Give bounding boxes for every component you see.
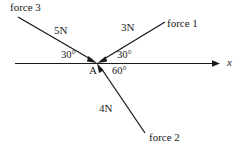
angle-below-label: 60° [112, 66, 127, 77]
force-3-magnitude-label: 5N [54, 25, 67, 36]
force-3-label: force 3 [10, 2, 41, 13]
x-axis-label: x [227, 57, 232, 68]
origin-point-label: A [89, 65, 97, 76]
force-1-label: force 1 [167, 18, 198, 29]
force-1-magnitude-label: 3N [121, 22, 134, 33]
force-2-label: force 2 [149, 132, 180, 143]
force-2-vector-line [101, 68, 145, 133]
force-diagram: force 3 5N 30° force 1 3N 30° 60° A 4N f… [0, 0, 242, 156]
force-2-magnitude-label: 4N [99, 103, 112, 114]
angle-right-label: 30° [117, 50, 132, 61]
force-1-arrowhead [98, 56, 108, 63]
x-axis-arrowhead [212, 60, 220, 66]
force-3-arrowhead [87, 56, 97, 63]
angle-left-label: 30° [61, 50, 76, 61]
